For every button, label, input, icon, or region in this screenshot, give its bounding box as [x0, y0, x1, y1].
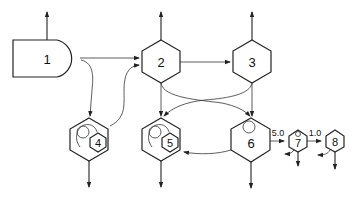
edge-3-to-5 — [164, 83, 252, 116]
node-4-label: 4 — [95, 137, 101, 149]
node-3: 3 — [233, 40, 271, 83]
node-5-label: 5 — [167, 137, 173, 149]
node-7-recycle-arrow — [285, 150, 294, 154]
node-5: 5 — [142, 118, 180, 161]
edge-6-to-7-label: 5.0 — [272, 128, 285, 138]
edge-6-to-5 — [184, 150, 231, 154]
node-6-label: 6 — [247, 136, 254, 151]
node-6: 6 — [231, 118, 270, 162]
edge-2-to-6 — [161, 83, 250, 116]
node-7-label: 7 — [295, 137, 301, 149]
node-8-label: 8 — [332, 136, 338, 148]
process-flow-diagram: 1 2 3 4 5 — [0, 0, 353, 199]
node-7: 7 — [289, 130, 307, 152]
node-1-label: 1 — [43, 52, 50, 67]
edge-1-to-4 — [81, 60, 93, 116]
node-8: 8 — [326, 130, 344, 152]
node-2-label: 2 — [157, 55, 164, 70]
node-8-recycle-arrow — [318, 150, 330, 155]
node-2: 2 — [142, 40, 180, 83]
node-1: 1 — [13, 40, 72, 77]
edge-4-to-2 — [110, 65, 139, 126]
edge-7-to-8-label: 1.0 — [309, 128, 322, 138]
node-3-label: 3 — [248, 55, 255, 70]
node-4: 4 — [70, 118, 108, 161]
